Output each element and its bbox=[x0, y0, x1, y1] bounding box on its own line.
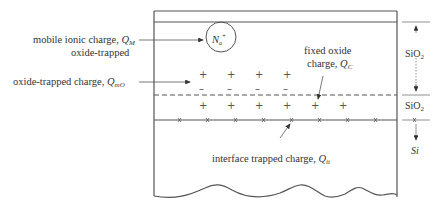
fixed-oxide-label-line1: fixed oxide bbox=[304, 45, 352, 57]
fixed-charge-plus: + bbox=[227, 101, 235, 111]
fixed-charge-plus: + bbox=[339, 101, 347, 111]
dimension-markers bbox=[402, 22, 430, 140]
fixed-oxide-arrow bbox=[318, 76, 323, 99]
interface-trapped-charge-label: interface trapped charge, Qit bbox=[212, 153, 330, 168]
oxide-trapped-minus: – bbox=[227, 84, 232, 94]
fixed-charge-plus: + bbox=[283, 101, 291, 111]
region-label-sio2-upper: SiO2 bbox=[405, 48, 424, 63]
oxide-trapped-plus: + bbox=[227, 70, 235, 80]
interface-trapped-arrow bbox=[280, 124, 290, 138]
oxide-trapped-plus: + bbox=[283, 70, 291, 80]
oxide-trapped-charge-label: oxide-trapped charge, QmO bbox=[13, 76, 125, 91]
structure-outline bbox=[154, 11, 397, 197]
mobile-ion-symbol: Na+ bbox=[212, 30, 226, 49]
oxide-trapped-label-line1: oxide-trapped bbox=[71, 47, 129, 59]
oxide-trapped-plus: + bbox=[255, 70, 263, 80]
fixed-oxide-charge-label: charge, QC bbox=[307, 58, 352, 73]
fixed-charge-plus: + bbox=[255, 101, 263, 111]
region-label-si: Si bbox=[411, 145, 419, 157]
oxide-trapped-minus: – bbox=[199, 84, 204, 94]
oxide-trapped-plus: + bbox=[199, 70, 207, 80]
fixed-charge-plus: + bbox=[199, 101, 207, 111]
oxide-trapped-minus: – bbox=[283, 84, 288, 94]
oxide-trapped-minus: – bbox=[255, 84, 260, 94]
fixed-charge-plus: + bbox=[311, 101, 319, 111]
region-label-sio2-lower: SiO2 bbox=[405, 100, 424, 115]
